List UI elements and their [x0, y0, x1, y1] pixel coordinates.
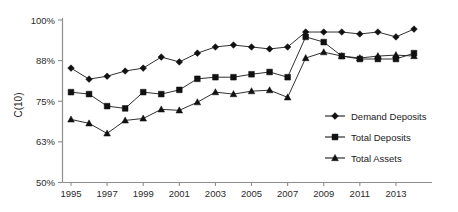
y-tick-label: 50% — [36, 177, 56, 188]
data-point-diamond — [212, 44, 219, 51]
data-point-square — [231, 74, 237, 80]
data-point-square — [104, 103, 110, 109]
chart-legend: Demand DepositsTotal DepositsTotal Asset… — [325, 111, 427, 164]
x-tick-label: 2011 — [350, 188, 370, 199]
legend-item-square[interactable]: Total Deposits — [325, 132, 411, 143]
data-point-diamond — [86, 76, 93, 83]
data-point-diamond — [158, 54, 165, 61]
data-point-triangle — [158, 106, 165, 112]
y-axis-title: C(10) — [13, 92, 24, 117]
data-point-triangle — [194, 99, 201, 105]
data-point-triangle — [140, 115, 147, 121]
chart-container: C(10) 100%88%75%63%50% 19951997199920012… — [0, 0, 458, 212]
data-point-diamond — [248, 44, 255, 51]
data-point-diamond — [411, 26, 418, 33]
legend-label: Total Assets — [351, 153, 402, 164]
x-tick-label: 2003 — [205, 188, 226, 199]
x-tick-label: 2009 — [313, 188, 334, 199]
x-tick-label: 2001 — [169, 188, 190, 199]
legend-label: Total Deposits — [351, 132, 411, 143]
y-tick-label: 75% — [36, 96, 56, 107]
data-point-diamond — [140, 65, 147, 72]
data-point-square — [249, 71, 255, 77]
legend-item-diamond[interactable]: Demand Deposits — [325, 111, 427, 122]
data-point-diamond — [320, 29, 327, 36]
data-point-triangle — [393, 52, 400, 58]
y-axis-ticks: 100%88%75%63%50% — [31, 15, 63, 189]
x-tick-label: 1997 — [97, 188, 118, 199]
data-point-square — [140, 89, 146, 95]
legend-marker-square-icon — [332, 134, 338, 140]
data-point-triangle — [320, 49, 327, 55]
data-point-diamond — [68, 65, 75, 72]
data-point-square — [285, 74, 291, 80]
series-triangle — [68, 49, 418, 136]
data-point-diamond — [122, 68, 129, 75]
y-tick-label: 100% — [31, 15, 56, 26]
line-chart: C(10) 100%88%75%63%50% 19951997199920012… — [0, 0, 458, 212]
data-point-triangle — [68, 116, 75, 122]
data-point-square — [213, 74, 219, 80]
series-line — [71, 37, 414, 109]
data-point-square — [303, 34, 309, 40]
y-tick-label: 88% — [36, 55, 56, 66]
data-point-triangle — [212, 89, 219, 95]
x-tick-label: 2013 — [385, 188, 406, 199]
data-point-triangle — [104, 130, 111, 136]
data-point-diamond — [357, 31, 364, 38]
x-tick-label: 2005 — [241, 188, 262, 199]
data-point-diamond — [338, 29, 345, 36]
data-point-square — [321, 39, 327, 45]
data-point-square — [86, 91, 92, 97]
x-tick-label: 2007 — [277, 188, 298, 199]
legend-marker-diamond-icon — [332, 113, 339, 120]
data-point-diamond — [104, 73, 111, 80]
y-axis-title-text: C(10) — [13, 92, 24, 117]
x-tick-label: 1995 — [60, 188, 81, 199]
data-point-square — [194, 76, 200, 82]
legend-item-triangle[interactable]: Total Assets — [325, 153, 402, 164]
x-tick-label: 1999 — [133, 188, 154, 199]
data-point-triangle — [266, 87, 273, 93]
data-point-square — [267, 69, 273, 75]
legend-label: Demand Deposits — [351, 111, 427, 122]
series-diamond — [68, 26, 418, 83]
data-point-diamond — [194, 50, 201, 57]
data-point-square — [158, 91, 164, 97]
data-point-diamond — [230, 42, 237, 49]
y-tick-label: 63% — [36, 136, 56, 147]
data-point-diamond — [375, 29, 382, 36]
data-point-square — [68, 89, 74, 95]
data-point-diamond — [393, 34, 400, 41]
data-point-diamond — [266, 46, 273, 53]
data-point-square — [176, 87, 182, 93]
x-axis-ticks: 1995199719992001200320052007200920112013 — [60, 183, 406, 200]
data-point-square — [122, 106, 128, 112]
data-point-diamond — [176, 59, 183, 66]
